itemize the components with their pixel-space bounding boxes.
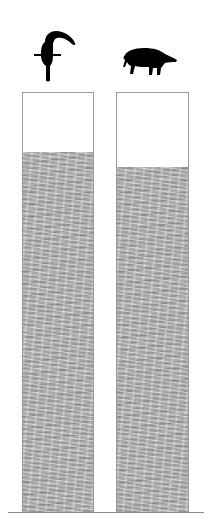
bar-fill-toucan [23,152,93,512]
bar-label-peccary: Peccary [117,93,118,94]
peccary-icon [122,47,178,77]
bar-fill-peccary [117,167,188,512]
toucan-icon [32,30,78,82]
bar-label-toucan: Toucan [23,93,24,94]
bar-peccary: Peccary [116,92,189,512]
x-axis-baseline [8,512,204,513]
bar-toucan: Toucan [22,92,94,512]
